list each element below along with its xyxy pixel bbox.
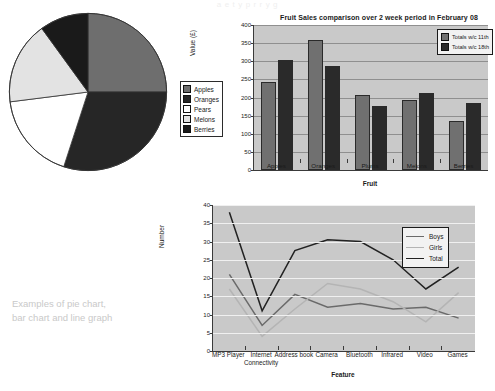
bar-y-tick-label: 300 — [241, 58, 251, 64]
legend-swatch-icon — [441, 43, 449, 51]
line-series-boys — [229, 274, 458, 325]
legend-swatch-icon — [183, 105, 191, 113]
line-x-tick-mark — [376, 346, 377, 350]
line-y-tick-mark — [210, 278, 213, 279]
bar-x-tick-label: Plums — [347, 162, 394, 169]
bar-legend-label: Totals w/c 11th — [452, 34, 489, 41]
line-y-tick-mark — [210, 223, 213, 224]
bar-group — [254, 25, 301, 170]
line-chart-figure: Number 0510152025303540 Feature BoysGirl… — [180, 200, 495, 391]
pie-slice-apples — [88, 13, 167, 92]
line-legend-label: Total — [429, 255, 443, 263]
pie-legend-item: Melons — [183, 114, 219, 124]
line-legend-label: Girls — [429, 244, 442, 252]
bar-chart-figure: Fruit Sales comparison over 2 week perio… — [215, 14, 495, 192]
line-gridline — [213, 333, 475, 334]
line-y-tick-label: 15 — [203, 293, 210, 299]
line-y-tick-mark — [210, 260, 213, 261]
line-y-tick-label: 30 — [203, 239, 210, 245]
line-y-tick-mark — [210, 315, 213, 316]
bar-y-tick-mark — [251, 170, 254, 171]
line-x-tick-mark — [441, 346, 442, 350]
line-chart-x-axis-label: Feature — [212, 371, 474, 378]
legend-line-icon — [406, 236, 424, 237]
pie-legend-label: Berries — [194, 126, 215, 133]
line-x-tick-mark — [409, 346, 410, 350]
pie-legend-item: Oranges — [183, 94, 219, 104]
bar-x-tick-label: Melons — [393, 162, 440, 169]
bar-x-tick-mark — [347, 159, 348, 163]
clipped-header-text: a e t y p r r y g — [0, 0, 495, 9]
bar-x-tick-mark — [300, 159, 301, 163]
pie-chart-svg — [8, 12, 168, 172]
line-legend-label: Boys — [429, 233, 443, 241]
line-gridline — [213, 223, 475, 224]
bar-chart-x-axis-label: Fruit — [253, 180, 487, 187]
legend-line-icon — [406, 258, 424, 259]
line-x-tick-mark — [278, 346, 279, 350]
figure-caption: Examples of pie chart, bar chart and lin… — [12, 297, 177, 325]
bar-x-tick-mark — [440, 159, 441, 163]
bar-group — [348, 25, 395, 170]
legend-swatch-icon — [183, 125, 191, 133]
bar-legend-item: Totals w/c 11th — [441, 32, 489, 42]
pie-chart-figure: ApplesOrangesPearsMelonsBerries — [8, 12, 173, 177]
line-y-tick-mark — [210, 205, 213, 206]
pie-legend-label: Pears — [194, 106, 211, 113]
bar-x-tick-label: Apples — [253, 162, 300, 169]
legend-swatch-icon — [441, 33, 449, 41]
bar-legend-item: Totals w/c 18th — [441, 42, 489, 52]
pie-legend-label: Melons — [194, 116, 215, 123]
line-legend-item: Total — [406, 253, 443, 264]
bar-legend-label: Totals w/c 18th — [452, 44, 489, 51]
line-gridline — [213, 296, 475, 297]
bar-y-tick-label: 250 — [241, 76, 251, 82]
bar-oranges-series-1 — [308, 40, 323, 171]
legend-swatch-icon — [183, 95, 191, 103]
bar-group — [301, 25, 348, 170]
bar-y-tick-label: 400 — [241, 22, 251, 28]
caption-line-1: Examples of pie chart, — [12, 297, 177, 311]
line-x-tick-label: Games — [435, 351, 480, 359]
bar-chart-title: Fruit Sales comparison over 2 week perio… — [263, 14, 495, 21]
bar-y-tick-label: 100 — [241, 131, 251, 137]
line-legend-item: Girls — [406, 242, 443, 253]
bar-y-tick-label: 200 — [241, 95, 251, 101]
line-y-tick-label: 40 — [203, 202, 210, 208]
pie-legend-item: Apples — [183, 84, 219, 94]
bar-melons-series-2 — [419, 93, 434, 170]
legend-line-icon — [406, 247, 424, 248]
bar-apples-series-2 — [278, 60, 293, 170]
bar-x-tick-label: Oranges — [300, 162, 347, 169]
line-y-tick-mark — [210, 296, 213, 297]
bar-y-tick-label: 150 — [241, 113, 251, 119]
line-x-tick-mark — [245, 346, 246, 350]
line-y-tick-label: 10 — [203, 312, 210, 318]
line-gridline — [213, 205, 475, 206]
pie-legend-item: Pears — [183, 104, 219, 114]
bar-berries-series-2 — [466, 103, 481, 170]
bar-x-tick-label: Berries — [440, 162, 487, 169]
line-y-tick-mark — [210, 333, 213, 334]
bar-melons-series-1 — [402, 100, 417, 170]
line-y-tick-label: 25 — [203, 257, 210, 263]
line-y-tick-label: 35 — [203, 220, 210, 226]
bar-y-tick-label: 350 — [241, 40, 251, 46]
bar-plums-series-1 — [355, 95, 370, 170]
line-chart-legend: BoysGirlsTotal — [402, 227, 449, 268]
line-x-tick-mark — [310, 346, 311, 350]
bar-chart-legend: Totals w/c 11thTotals w/c 18th — [437, 29, 493, 55]
bar-chart-y-axis-label: Value (£) — [189, 30, 196, 56]
line-x-tick-mark — [343, 346, 344, 350]
line-y-tick-mark — [210, 242, 213, 243]
bar-apples-series-1 — [261, 82, 276, 170]
pie-slices — [9, 13, 166, 170]
line-gridline — [213, 315, 475, 316]
bar-oranges-series-2 — [325, 66, 340, 170]
caption-line-2: bar chart and line graph — [12, 311, 177, 325]
legend-swatch-icon — [183, 115, 191, 123]
line-chart-y-axis-label: Number — [158, 225, 165, 248]
pie-legend-label: Apples — [194, 86, 214, 93]
bar-group — [394, 25, 441, 170]
bar-plums-series-2 — [372, 106, 387, 170]
